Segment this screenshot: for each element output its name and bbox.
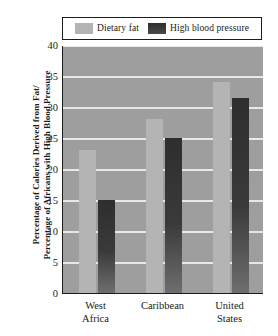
y-axis-tick-label: 25 [48, 134, 59, 145]
bar-caribbean-high-blood-pressure [165, 138, 182, 293]
bar-caribbean-dietary-fat [146, 119, 163, 293]
x-axis-category-label-line: States [215, 313, 244, 326]
y-axis-tick-label: 0 [53, 289, 58, 300]
x-axis-category-label: Caribbean [141, 300, 184, 313]
y-axis-tick-label: 15 [48, 196, 59, 207]
legend-swatch-dietary-fat [75, 23, 93, 34]
x-axis-category-label-line: Africa [82, 313, 109, 326]
legend-label-high-blood-pressure: High blood pressure [170, 24, 249, 34]
plot-area: 0510152025303540 [62, 46, 263, 294]
gridline [63, 46, 263, 47]
legend-label-dietary-fat: Dietary fat [97, 24, 139, 34]
y-axis-tick-label: 5 [53, 258, 58, 269]
y-axis-title-line-1: Percentage of Calories Derived from Fat/ [31, 85, 43, 244]
y-axis-tick-label: 20 [48, 165, 59, 176]
y-axis-tick-label: 10 [48, 227, 59, 238]
y-axis-tick-label: 40 [48, 41, 59, 52]
bar-chart-figure: Dietary fat High blood pressure Percenta… [0, 0, 278, 336]
bar-west-africa-high-blood-pressure [98, 200, 115, 293]
x-axis-category-label: WestAfrica [82, 300, 109, 325]
x-axis-category-label-line: West [82, 300, 109, 313]
chart-legend: Dietary fat High blood pressure [62, 17, 262, 40]
legend-entry-dietary-fat: Dietary fat [75, 23, 139, 34]
legend-swatch-high-blood-pressure [148, 23, 166, 34]
bar-united-states-dietary-fat [213, 82, 230, 293]
x-axis-category-label: UnitedStates [215, 300, 244, 325]
x-axis-category-label-line: Caribbean [141, 300, 184, 313]
x-axis-category-label-line: United [215, 300, 244, 313]
y-axis-tick-label: 30 [48, 103, 59, 114]
bar-united-states-high-blood-pressure [232, 98, 249, 293]
y-axis-tick-label: 35 [48, 72, 59, 83]
legend-entry-high-blood-pressure: High blood pressure [148, 23, 249, 34]
bar-west-africa-dietary-fat [79, 150, 96, 293]
plot-inner [63, 46, 263, 293]
gridline [63, 76, 263, 77]
